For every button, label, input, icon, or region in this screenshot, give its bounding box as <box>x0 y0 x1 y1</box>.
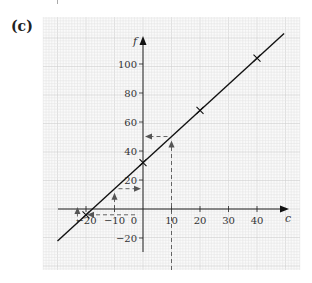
x-axis-label: c <box>285 212 291 225</box>
x-tick-label: 40 <box>251 215 264 226</box>
y-tick-label: 80 <box>124 88 137 99</box>
x-tick-label: −10 <box>104 215 125 226</box>
chart: cf−20−10010203040−2020406080100 <box>0 0 312 283</box>
x-tick-label: 30 <box>222 215 235 226</box>
x-tick-label: 0 <box>131 215 137 226</box>
x-tick-label: 20 <box>194 215 207 226</box>
y-tick-label: 100 <box>118 59 137 70</box>
y-tick-label: 20 <box>124 175 137 186</box>
y-tick-label: −20 <box>116 233 137 244</box>
y-tick-label: 40 <box>124 146 137 157</box>
y-tick-label: 60 <box>124 117 137 128</box>
